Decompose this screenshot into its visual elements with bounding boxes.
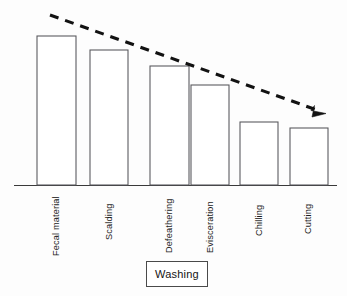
bar-fecal-material <box>37 36 76 185</box>
washing-annotation-label: Washing <box>155 268 199 280</box>
bar-evisceration <box>191 85 229 185</box>
x-tick-label-fecal-material: Fecal material <box>52 196 61 256</box>
washing-annotation-box: Washing <box>146 261 208 287</box>
bar-cutting <box>290 128 328 185</box>
x-tick-label-cutting: Cutting <box>304 204 313 234</box>
x-tick-label-evisceration: Evisceration <box>206 201 215 253</box>
x-tick-label-chilling: Chilling <box>255 205 264 236</box>
bar-chilling <box>240 122 278 185</box>
x-tick-label-scalding: Scalding <box>105 204 114 240</box>
bar-scalding <box>90 50 128 185</box>
trend-arrowhead-icon <box>311 106 326 118</box>
x-tick-label-defeathering: Defeathering <box>165 199 174 253</box>
bar-defeathering <box>150 66 189 185</box>
bar-chart-figure: Fecal material Scalding Defeathering Evi… <box>0 0 347 296</box>
